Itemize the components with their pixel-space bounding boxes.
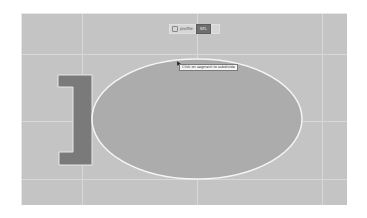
bracket-profile-shape[interactable] bbox=[58, 75, 92, 165]
ellipse-profile-shape[interactable] bbox=[92, 59, 302, 179]
toolbar-expand-button[interactable] bbox=[211, 24, 220, 34]
scene-shapes bbox=[22, 14, 347, 205]
profile-icon bbox=[172, 26, 178, 32]
viewport-toolbar: profile SEL bbox=[169, 24, 220, 34]
profile-label: profile bbox=[180, 25, 193, 33]
profile-tool-button[interactable]: profile bbox=[169, 24, 196, 34]
tooltip: Click on segment to subdivide bbox=[179, 64, 238, 71]
select-tool-button[interactable]: SEL bbox=[196, 24, 211, 34]
3d-viewport[interactable]: profile SEL Click on segment to subdivid… bbox=[21, 13, 347, 205]
